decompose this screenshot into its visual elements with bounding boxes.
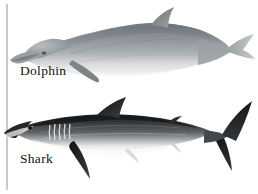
shark-illustration <box>0 97 258 194</box>
shark-caudal-fin-upper <box>222 101 252 141</box>
shark-eye <box>28 127 32 130</box>
panel-dolphin: Dolphin <box>0 0 258 97</box>
shark-label: Shark <box>20 152 53 166</box>
dolphin-eye <box>42 52 46 55</box>
dolphin-tail-fluke <box>228 34 255 59</box>
dolphin-label: Dolphin <box>20 64 66 78</box>
dolphin-illustration <box>0 0 258 97</box>
panel-shark: Shark <box>0 97 258 194</box>
comparison-figure: Dolphin <box>0 0 258 194</box>
shark-caudal-fin-lower <box>216 138 232 171</box>
dolphin-caudal-peduncle <box>198 40 232 65</box>
